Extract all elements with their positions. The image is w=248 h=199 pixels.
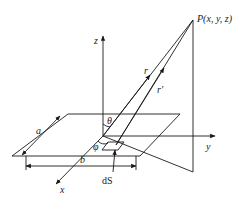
diagram-canvas: P(x, y, z) z y x r r' θ φ a b dS xyxy=(0,0,248,199)
r-prime-arrow xyxy=(116,68,164,145)
r-label: r xyxy=(144,65,148,76)
ds-label: dS xyxy=(102,175,113,186)
side-a-label: a xyxy=(36,125,41,136)
r-arrow xyxy=(103,75,150,136)
ds-pointer xyxy=(113,150,115,172)
z-axis-label: z xyxy=(93,35,98,46)
side-b-label: b xyxy=(80,154,85,165)
x-axis-label: x xyxy=(59,184,65,195)
phi-arc xyxy=(98,141,108,144)
theta-label: θ xyxy=(107,115,112,126)
point-p-label: P(x, y, z) xyxy=(196,13,233,25)
r-prime-label: r' xyxy=(157,84,164,95)
y-axis-label: y xyxy=(205,141,211,152)
phi-label: φ xyxy=(93,141,99,152)
projection-base xyxy=(103,136,193,172)
dimension-a xyxy=(22,116,60,155)
